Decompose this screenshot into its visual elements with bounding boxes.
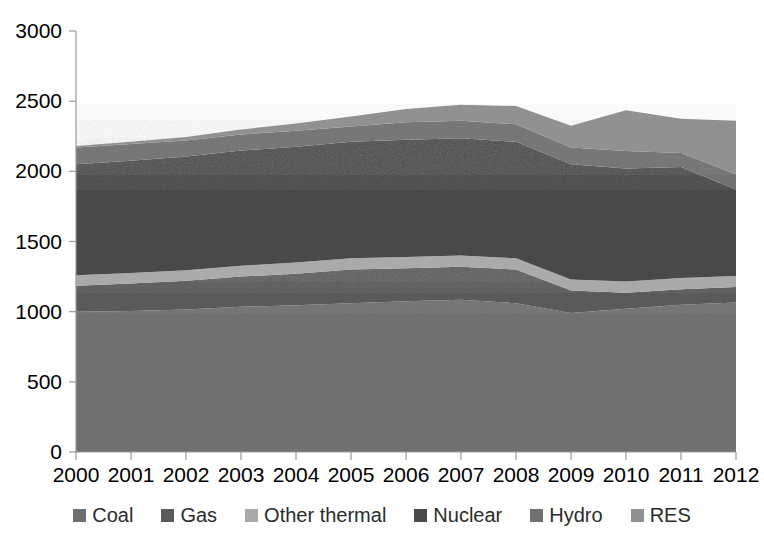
legend-item-label: Nuclear: [433, 505, 502, 525]
legend-swatch-icon: [414, 509, 427, 522]
y-tick-group: [69, 31, 76, 452]
x-tick-label: 2011: [658, 463, 703, 486]
y-tick-label: 1500: [15, 230, 62, 253]
legend-item-other-thermal[interactable]: Other thermal: [245, 505, 386, 525]
y-tick-label: 0: [50, 440, 62, 463]
y-tick-label: 2500: [15, 89, 62, 112]
plot-area: 050010001500200025003000 200020012002200…: [0, 0, 764, 542]
x-tick-label: 2005: [328, 463, 375, 486]
legend-item-label: Other thermal: [264, 505, 386, 525]
x-tick-label: 2010: [603, 463, 650, 486]
legend-item-label: Hydro: [549, 505, 602, 525]
chart-canvas: 050010001500200025003000 200020012002200…: [0, 0, 764, 542]
legend-item-label: Gas: [180, 505, 217, 525]
legend-swatch-icon: [161, 509, 174, 522]
legend-item-nuclear[interactable]: Nuclear: [414, 505, 502, 525]
area-series-group: [76, 105, 736, 452]
legend-item-res[interactable]: RES: [631, 505, 691, 525]
x-tick-label: 2003: [218, 463, 265, 486]
legend-swatch-icon: [73, 509, 86, 522]
x-tick-label: 2002: [163, 463, 210, 486]
stacked-area-chart: 050010001500200025003000 200020012002200…: [0, 0, 764, 542]
legend-item-label: RES: [650, 505, 691, 525]
x-tick-group: [76, 452, 736, 460]
legend-item-coal[interactable]: Coal: [73, 505, 133, 525]
legend-item-gas[interactable]: Gas: [161, 505, 217, 525]
chart-legend: CoalGasOther thermalNuclearHydroRES: [0, 500, 764, 530]
legend-item-hydro[interactable]: Hydro: [530, 505, 602, 525]
x-tick-label: 2006: [383, 463, 430, 486]
y-tick-label: 1000: [15, 300, 62, 323]
x-tick-label: 2001: [108, 463, 155, 486]
x-tick-label: 2000: [53, 463, 100, 486]
legend-swatch-icon: [245, 509, 258, 522]
x-tick-label: 2008: [493, 463, 540, 486]
x-tick-label: 2004: [273, 463, 320, 486]
y-tick-label: 2000: [15, 159, 62, 182]
x-tick-label: 2012: [713, 463, 760, 486]
legend-swatch-icon: [631, 509, 644, 522]
legend-item-label: Coal: [92, 505, 133, 525]
y-tick-labels: 050010001500200025003000: [15, 19, 62, 463]
y-tick-label: 500: [27, 370, 62, 393]
area-series-coal: [76, 300, 736, 452]
x-tick-label: 2007: [438, 463, 485, 486]
x-tick-label: 2009: [548, 463, 595, 486]
x-tick-labels: 2000200120022003200420052006200720082009…: [53, 463, 760, 486]
y-tick-label: 3000: [15, 19, 62, 42]
legend-swatch-icon: [530, 509, 543, 522]
